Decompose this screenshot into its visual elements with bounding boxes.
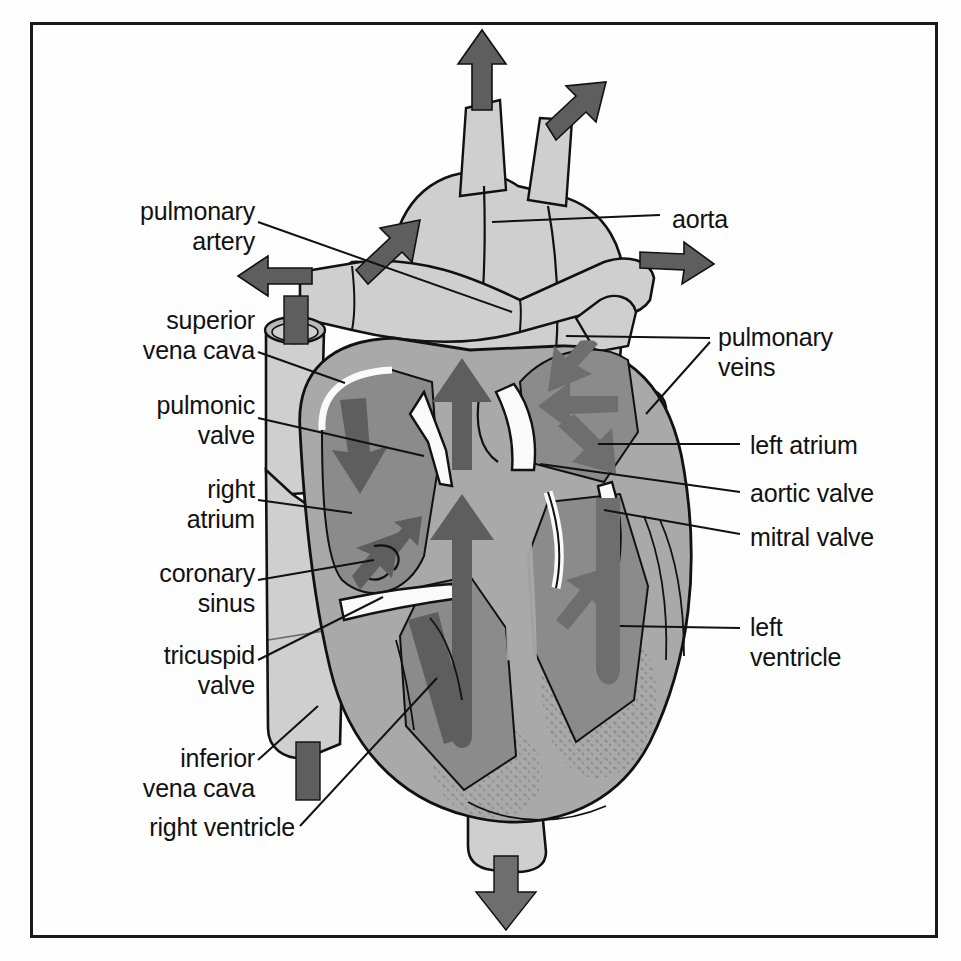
label-left-atrium: left atrium (750, 430, 960, 460)
label-mitral-valve: mitral valve (750, 522, 960, 552)
pulmonary-artery-edge2 (520, 300, 521, 332)
label-tricuspid-valve: tricuspid valve (60, 640, 255, 700)
arrow-ivc-in (296, 742, 320, 800)
label-aortic-valve: aortic valve (750, 478, 960, 508)
label-pulmonary-veins: pulmonary veins (718, 322, 948, 382)
label-aorta: aorta (672, 204, 902, 234)
label-right-ventricle: right ventricle (35, 812, 295, 842)
left-common-carotid (460, 100, 506, 196)
label-inferior-vena-cava: inferior vena cava (50, 743, 255, 803)
arrow-aorta-branch-mid (458, 30, 506, 110)
diagram-stage: pulmonary artery superior vena cava pulm… (0, 0, 961, 961)
arrow-aorta-branch-right (546, 82, 606, 140)
label-superior-vena-cava: superior vena cava (42, 305, 255, 365)
leader-pulmonary-veins-b (646, 342, 710, 414)
label-coronary-sinus: coronary sinus (60, 558, 255, 618)
label-pulmonary-artery: pulmonary artery (60, 196, 255, 256)
arrow-svc-in (284, 296, 308, 344)
arrow-lv-fill (596, 498, 620, 685)
label-left-ventricle: left ventricle (750, 612, 960, 672)
label-pulmonic-valve: pulmonic valve (60, 390, 255, 450)
label-right-atrium: right atrium (80, 474, 255, 534)
